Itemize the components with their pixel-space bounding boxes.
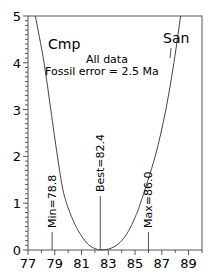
x-axis: 77798183858789 — [20, 250, 202, 271]
y-tick-label: 2 — [13, 149, 21, 164]
plot-area: 012345 77798183858789 Min=78.8Best=82.4M… — [0, 0, 208, 273]
x-tick-label: 87 — [154, 256, 171, 271]
y-tick-label: 5 — [13, 9, 21, 24]
period-boundary-tick — [170, 48, 171, 58]
x-tick-label: 77 — [20, 256, 37, 271]
period-label-left: Cmp — [48, 36, 80, 52]
y-axis: 012345 — [13, 9, 28, 258]
marker-label-max: Max=86.0 — [142, 172, 155, 228]
x-tick-label: 79 — [46, 256, 63, 271]
marker-label-best: Best=82.4 — [94, 134, 107, 192]
y-tick-label: 3 — [13, 103, 21, 118]
x-tick-label: 89 — [180, 256, 197, 271]
marker-label-min: Min=78.8 — [46, 175, 59, 228]
x-tick-label: 83 — [100, 256, 117, 271]
x-tick-label: 85 — [127, 256, 144, 271]
period-label-right: San — [163, 30, 189, 46]
subtitle-line2: Fossil error = 2.5 Ma — [45, 65, 159, 78]
marker-lines: Min=78.8Best=82.4Max=86.0 — [46, 48, 171, 250]
x-tick-label: 81 — [73, 256, 90, 271]
chart: 012345 77798183858789 Min=78.8Best=82.4M… — [0, 0, 208, 273]
y-tick-label: 4 — [13, 56, 21, 71]
y-tick-label: 1 — [13, 196, 21, 211]
